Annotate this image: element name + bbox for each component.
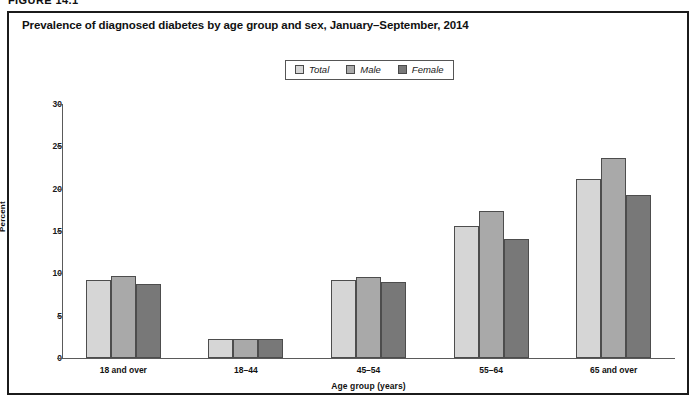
bar-female-2 [381, 282, 406, 358]
bar-male-0 [111, 276, 136, 358]
x-category-label: 55–64 [430, 365, 553, 375]
x-category-label: 18 and over [62, 365, 185, 375]
bar-total-1 [208, 339, 233, 358]
x-axis-line [62, 358, 675, 359]
bar-male-2 [356, 277, 381, 358]
bar-group [576, 104, 651, 358]
bar-female-1 [258, 339, 283, 358]
figure-root: FIGURE 14.1 Prevalence of diagnosed diab… [0, 0, 696, 401]
bar-male-4 [601, 158, 626, 358]
y-tick-mark-0 [57, 358, 62, 359]
bar-female-3 [504, 239, 529, 358]
bar-group [86, 104, 161, 358]
bar-male-3 [479, 211, 504, 358]
bar-male-1 [233, 339, 258, 358]
plot-area: 051015202530 Percent 18 and over18–4445–… [0, 0, 696, 401]
bar-group [208, 104, 283, 358]
x-category-label: 18–44 [185, 365, 308, 375]
bar-series-layer [62, 104, 675, 358]
bar-total-4 [576, 179, 601, 358]
bar-female-4 [626, 195, 651, 358]
bar-total-2 [331, 280, 356, 358]
bar-total-0 [86, 280, 111, 358]
bar-female-0 [136, 284, 161, 359]
y-axis-title: Percent [0, 201, 7, 232]
x-category-label: 65 and over [552, 365, 675, 375]
bar-group [454, 104, 529, 358]
x-category-label: 45–54 [307, 365, 430, 375]
bar-total-3 [454, 226, 479, 358]
bar-group [331, 104, 406, 358]
x-axis-title: Age group (years) [62, 381, 675, 391]
